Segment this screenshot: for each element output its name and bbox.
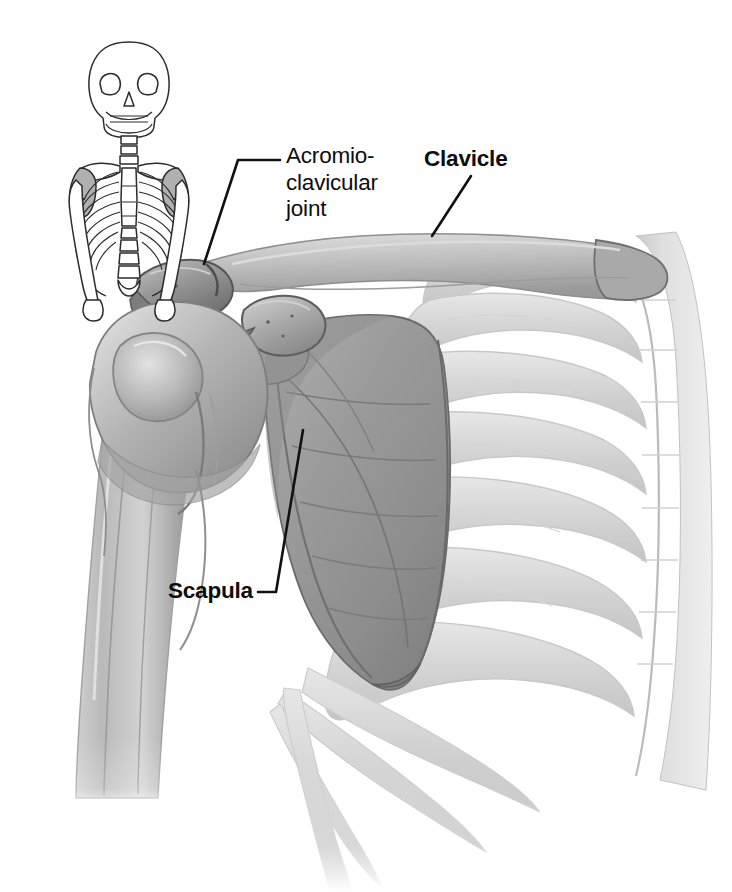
greater-tubercle (113, 333, 203, 421)
coracoid-speckle-2 (290, 314, 293, 317)
label-clavicle: Clavicle (424, 146, 507, 173)
inset-c2 (121, 146, 137, 154)
shoulder-illustration (0, 0, 732, 892)
coracoid-speckle-1 (266, 320, 270, 324)
inset-humerus-left-end (83, 300, 103, 321)
label-scapula: Scapula (168, 578, 253, 605)
inset-orbit-left (100, 73, 120, 94)
inset-l2 (120, 240, 138, 251)
anatomy-figure: Acromio- clavicular joint Clavicle Scapu… (0, 0, 732, 892)
lower-fade (250, 760, 650, 892)
label-acromioclavicular-joint: Acromio- clavicular joint (286, 143, 378, 223)
inset-l4 (118, 266, 140, 278)
inset-l1 (121, 228, 137, 238)
inset-l3 (119, 253, 139, 264)
inset-c1 (121, 136, 137, 144)
humerus-fade (60, 736, 220, 816)
coracoid-speckle-3 (282, 335, 285, 338)
inset-sternum (121, 168, 137, 226)
inset-orbit-right (138, 73, 158, 94)
inset-c3 (120, 156, 138, 164)
inset-humerus-right-end (155, 300, 175, 321)
